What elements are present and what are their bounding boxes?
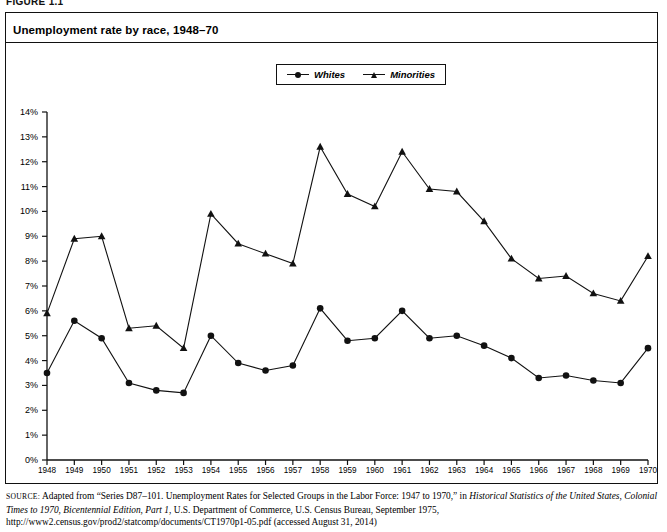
figure-page: FIGURE 1.1 Unemployment rate by race, 19… <box>0 0 667 532</box>
x-tick-label: 1953 <box>174 466 192 475</box>
x-tick-label: 1955 <box>229 466 247 475</box>
x-tick-label: 1969 <box>612 466 630 475</box>
x-tick-label: 1961 <box>393 466 411 475</box>
x-tick-label: 1965 <box>502 466 520 475</box>
x-tick-label: 1968 <box>584 466 602 475</box>
x-tick-label: 1962 <box>420 466 438 475</box>
x-tick-label: 1956 <box>256 466 274 475</box>
x-tick-label: 1964 <box>475 466 493 475</box>
source-prefix: SOURCE: <box>6 492 40 501</box>
x-tick-label: 1958 <box>311 466 329 475</box>
x-tick-label: 1966 <box>530 466 548 475</box>
x-tick-label: 1963 <box>448 466 466 475</box>
x-tick-label: 1949 <box>65 466 83 475</box>
x-tick-label: 1952 <box>147 466 165 475</box>
x-tick-label: 1948 <box>38 466 56 475</box>
x-tick-label: 1967 <box>557 466 575 475</box>
source-note: SOURCE: Adapted from “Series D87–101. Un… <box>6 490 661 529</box>
x-tick-label: 1959 <box>338 466 356 475</box>
x-axis-labels: 1948194919501951195219531954195519561957… <box>0 0 667 532</box>
x-tick-label: 1970 <box>639 466 657 475</box>
x-tick-label: 1954 <box>202 466 220 475</box>
x-tick-label: 1951 <box>120 466 138 475</box>
x-tick-label: 1960 <box>366 466 384 475</box>
x-tick-label: 1950 <box>93 466 111 475</box>
source-text-1: Adapted from “Series D87–101. Unemployme… <box>40 491 469 501</box>
x-tick-label: 1957 <box>284 466 302 475</box>
